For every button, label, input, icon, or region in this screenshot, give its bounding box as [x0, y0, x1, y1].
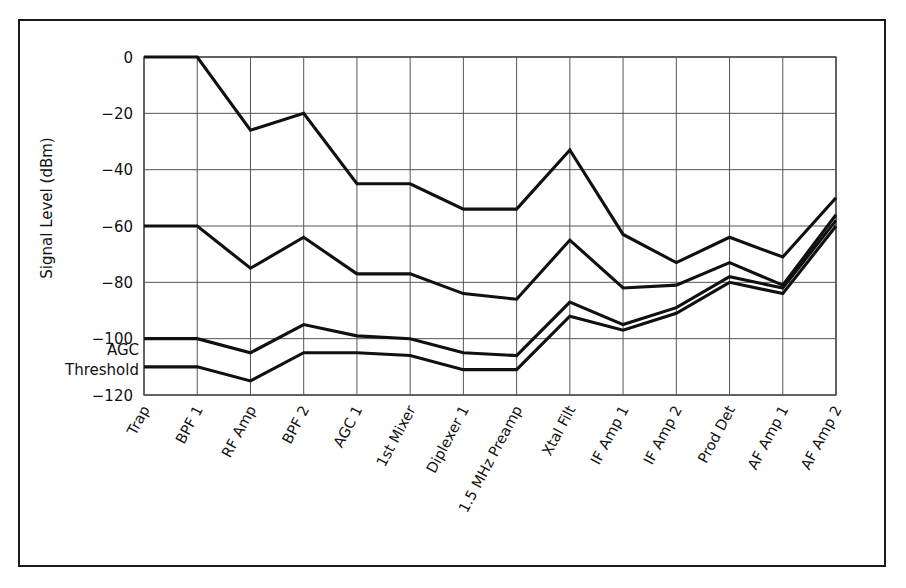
- x-axis-label-7: Diplexer 1: [423, 403, 472, 476]
- data-series-lines: [144, 57, 836, 381]
- x-axis-label-5: AGC 1: [330, 403, 365, 450]
- figure-canvas: 0−20−40−60−80−100−120 Signal Level (dBm)…: [0, 0, 906, 588]
- x-axis-label-13: AF Amp 1: [744, 403, 791, 472]
- grid-lines: [144, 57, 836, 395]
- x-axis-label-6: 1st Mixer: [373, 403, 418, 469]
- x-axis-label-11: IF Amp 2: [641, 403, 685, 467]
- x-axis-label-3: RF Amp: [219, 403, 260, 460]
- annotation-text-1: AGC: [107, 341, 139, 359]
- series-line-3: [144, 220, 836, 355]
- series-line-4: [144, 226, 836, 381]
- series-line-1: [144, 57, 836, 263]
- y-axis-tick-label: −40: [101, 161, 133, 179]
- y-axis-title-text: Signal Level (dBm): [38, 137, 56, 278]
- y-axis-tick-label: −60: [101, 218, 133, 236]
- x-axis-label-4: BPF 2: [279, 403, 312, 447]
- x-axis-label-9: Xtal Filt: [539, 403, 579, 459]
- x-axis-label-14: AF Amp 2: [798, 403, 845, 472]
- series-line-2: [144, 215, 836, 300]
- x-axis-label-2: BPF 1: [173, 403, 206, 447]
- x-axis-category-labels: TrapBPF 1RF AmpBPF 2AGC 11st MixerDiplex…: [124, 403, 845, 515]
- signal-level-line-chart: 0−20−40−60−80−100−120 Signal Level (dBm)…: [0, 0, 906, 588]
- y-axis-tick-label: −80: [101, 274, 133, 292]
- x-axis-label-12: Prod Det: [695, 403, 739, 466]
- y-axis-tick-label: −20: [101, 105, 133, 123]
- y-axis-tick-label: 0: [123, 49, 133, 67]
- y-axis-title: Signal Level (dBm): [38, 137, 56, 278]
- x-axis-label-1: Trap: [124, 403, 153, 439]
- y-axis-tick-label: −120: [92, 387, 133, 405]
- x-axis-label-10: IF Amp 1: [587, 403, 631, 467]
- annotation-text-2: Threshold: [64, 361, 139, 379]
